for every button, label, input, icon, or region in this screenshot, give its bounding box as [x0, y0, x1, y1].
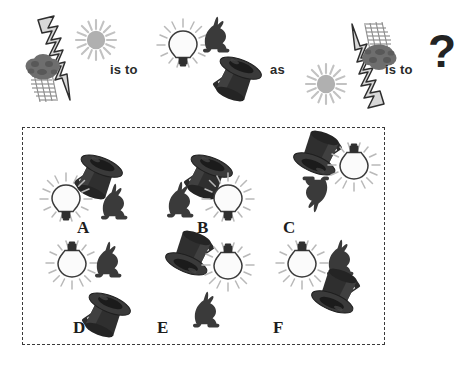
top-hat-with-wand-icon — [200, 36, 276, 104]
answer-option-f-label: F — [273, 318, 283, 338]
answer-option-a[interactable]: A — [41, 134, 161, 238]
answer-option-d[interactable]: D — [41, 240, 161, 344]
answer-options-panel: A B C — [22, 127, 385, 345]
rabbit-icon — [161, 174, 199, 216]
answer-option-e[interactable]: E — [151, 240, 271, 344]
answer-option-b[interactable]: B — [163, 134, 283, 238]
question-mark-unknown: ? — [428, 28, 456, 74]
connector-as: as — [270, 62, 285, 77]
connector-is-to-second: is to — [385, 62, 413, 77]
answer-option-c[interactable]: C — [281, 134, 401, 238]
rabbit-icon — [297, 178, 335, 220]
answer-option-f[interactable]: F — [273, 240, 393, 344]
rabbit-icon — [95, 176, 133, 218]
puzzle-canvas: is to as is to ? — [0, 0, 463, 369]
answer-option-d-label: D — [73, 318, 85, 338]
connector-is-to-first: is to — [110, 62, 138, 77]
analogy-term-b-magic-scene — [152, 12, 272, 104]
top-hat-with-wand-icon — [295, 268, 371, 336]
rabbit-icon — [187, 284, 225, 326]
answer-option-e-label: E — [157, 318, 168, 338]
